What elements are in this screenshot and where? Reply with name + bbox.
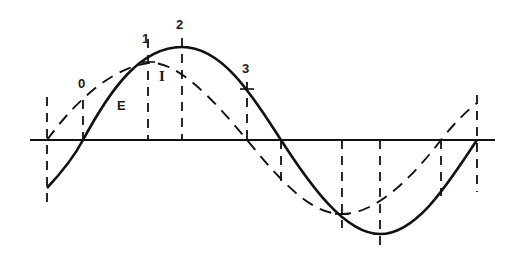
- sine-wave-diagram: 0 1 2 3 E I: [0, 0, 518, 257]
- label-point-2: 2: [176, 17, 183, 32]
- label-point-3: 3: [242, 61, 249, 76]
- label-curve-e: E: [117, 98, 126, 113]
- label-curve-i: I: [159, 68, 165, 84]
- label-point-0: 0: [78, 76, 85, 91]
- label-point-1: 1: [142, 31, 149, 46]
- current-curve-i: [47, 63, 477, 214]
- vertical-guides: [47, 38, 477, 245]
